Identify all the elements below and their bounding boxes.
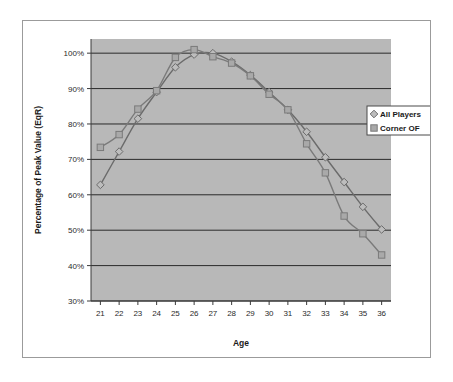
x-tick-label: 31 bbox=[283, 309, 292, 318]
y-tick-label: 100% bbox=[64, 49, 84, 58]
data-point-square bbox=[210, 54, 216, 60]
y-tick-label: 40% bbox=[68, 262, 84, 271]
x-axis-ticks-group bbox=[100, 301, 381, 305]
data-point-square bbox=[266, 91, 272, 97]
data-point-square bbox=[172, 54, 178, 60]
plot-area-background bbox=[91, 39, 391, 301]
y-tick-label: 30% bbox=[68, 297, 84, 306]
square-marker bbox=[360, 231, 366, 237]
data-point-square bbox=[191, 46, 197, 52]
y-tick-label: 70% bbox=[68, 155, 84, 164]
square-marker bbox=[266, 91, 272, 97]
x-axis-tick-labels: 21222324252627282930313233343536 bbox=[96, 309, 387, 318]
x-tick-label: 32 bbox=[302, 309, 311, 318]
x-tick-label: 21 bbox=[96, 309, 105, 318]
data-point-square bbox=[97, 144, 103, 150]
square-marker bbox=[116, 131, 122, 137]
square-marker bbox=[210, 54, 216, 60]
y-tick-label: 90% bbox=[68, 85, 84, 94]
y-axis-title: Percentage of Peak Value (EqR) bbox=[33, 106, 43, 234]
data-point-square bbox=[247, 73, 253, 79]
x-tick-label: 34 bbox=[340, 309, 349, 318]
y-axis-ticks-group bbox=[87, 53, 91, 301]
plot-background-group bbox=[91, 39, 391, 301]
legend-label-corner-of: Corner OF bbox=[380, 124, 420, 133]
chart-canvas: 30%40%50%60%70%80%90%100% 21222324252627… bbox=[23, 21, 430, 357]
square-marker bbox=[303, 141, 309, 147]
square-marker bbox=[371, 125, 377, 131]
data-point-square bbox=[285, 107, 291, 113]
square-marker bbox=[341, 213, 347, 219]
x-tick-label: 28 bbox=[227, 309, 236, 318]
square-marker bbox=[247, 73, 253, 79]
data-point-square bbox=[360, 231, 366, 237]
x-tick-label: 33 bbox=[321, 309, 330, 318]
square-marker bbox=[322, 170, 328, 176]
x-tick-label: 27 bbox=[208, 309, 217, 318]
legend-label-all-players: All Players bbox=[380, 110, 421, 119]
x-tick-label: 22 bbox=[115, 309, 124, 318]
x-tick-label: 26 bbox=[190, 309, 199, 318]
x-tick-label: 30 bbox=[265, 309, 274, 318]
data-point-square bbox=[341, 213, 347, 219]
data-point-square bbox=[153, 87, 159, 93]
x-tick-label: 35 bbox=[358, 309, 367, 318]
y-axis-tick-labels: 30%40%50%60%70%80%90%100% bbox=[64, 49, 84, 306]
x-axis-title: Age bbox=[233, 338, 249, 348]
y-tick-label: 50% bbox=[68, 226, 84, 235]
square-marker bbox=[191, 46, 197, 52]
x-tick-label: 25 bbox=[171, 309, 180, 318]
data-point-square bbox=[378, 252, 384, 258]
square-marker bbox=[228, 60, 234, 66]
data-point-square bbox=[322, 170, 328, 176]
x-tick-label: 23 bbox=[133, 309, 142, 318]
square-marker bbox=[153, 87, 159, 93]
square-marker bbox=[97, 144, 103, 150]
x-tick-label: 36 bbox=[377, 309, 386, 318]
y-tick-label: 60% bbox=[68, 191, 84, 200]
data-point-square bbox=[303, 141, 309, 147]
y-tick-label: 80% bbox=[68, 120, 84, 129]
square-marker bbox=[172, 54, 178, 60]
chart-card: 30%40%50%60%70%80%90%100% 21222324252627… bbox=[22, 20, 431, 358]
square-marker bbox=[378, 252, 384, 258]
square-marker bbox=[135, 106, 141, 112]
square-marker bbox=[285, 107, 291, 113]
x-tick-label: 24 bbox=[152, 309, 161, 318]
data-point-square bbox=[228, 60, 234, 66]
data-point-square bbox=[371, 125, 377, 131]
data-point-square bbox=[116, 131, 122, 137]
x-tick-label: 29 bbox=[246, 309, 255, 318]
data-point-square bbox=[135, 106, 141, 112]
chart-legend[interactable]: All PlayersCorner OF bbox=[367, 106, 430, 135]
